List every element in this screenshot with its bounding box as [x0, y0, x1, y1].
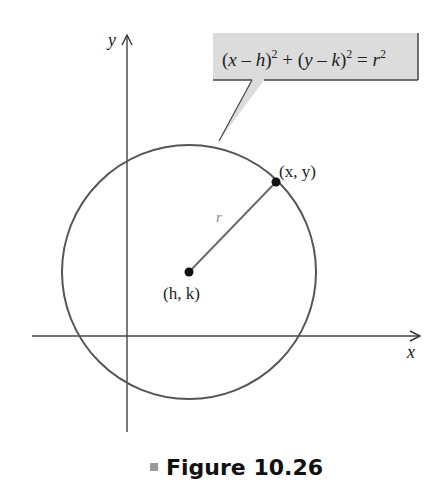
caption-text: Figure 10.26 [166, 455, 323, 480]
circle-point-label: (x, y) [279, 162, 316, 181]
center-point-label: (h, k) [163, 284, 200, 303]
caption-marker-icon [150, 463, 158, 471]
center-point [185, 268, 194, 277]
y-axis-label: y [106, 30, 116, 50]
circle-diagram: (x – h)2 + (y – k)2 = r2 y x r (h, k) (x… [0, 0, 444, 482]
equation-text: (x – h)2 + (y – k)2 = r2 [222, 47, 386, 71]
figure-caption: Figure 10.26 [150, 452, 323, 482]
radius-label: r [216, 209, 222, 225]
equation-callout: (x – h)2 + (y – k)2 = r2 [213, 33, 418, 141]
x-axis-label: x [406, 342, 415, 362]
x-axis: x [32, 331, 420, 362]
radius-line [189, 182, 276, 272]
